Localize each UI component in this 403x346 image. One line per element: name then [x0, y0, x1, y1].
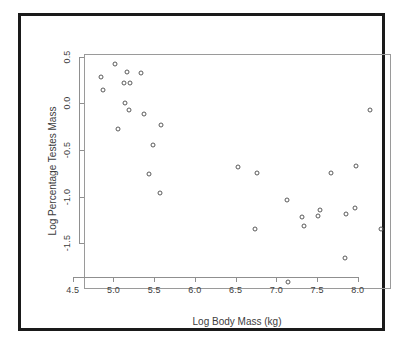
- x-axis-tick-label: 8.0: [351, 285, 364, 295]
- data-point: [284, 197, 289, 202]
- data-point: [124, 69, 129, 74]
- y-axis-title: Log Percentage Testes Mass: [47, 107, 58, 236]
- x-axis-tick: [113, 277, 114, 282]
- x-axis-tick-label: 7.0: [270, 285, 283, 295]
- data-point: [157, 191, 162, 196]
- data-point: [122, 80, 127, 85]
- y-axis-tick-label: -1.0: [62, 188, 72, 204]
- y-axis-tick: [79, 103, 84, 104]
- data-point: [285, 279, 290, 284]
- x-axis-tick: [236, 277, 237, 282]
- x-axis-tick-label: 5.0: [107, 285, 120, 295]
- x-axis-tick-label: 4.5: [66, 285, 79, 295]
- y-axis-tick: [79, 243, 84, 244]
- x-axis-tick: [73, 277, 74, 282]
- x-axis-tick-label: 5.5: [148, 285, 161, 295]
- data-point: [158, 122, 163, 127]
- data-point: [315, 214, 320, 219]
- y-axis-tick: [79, 57, 84, 58]
- y-axis-tick-label: 0.0: [62, 97, 72, 110]
- data-point: [342, 256, 347, 261]
- x-axis-title: Log Body Mass (kg): [193, 316, 282, 327]
- data-point: [146, 172, 151, 177]
- data-point: [115, 126, 120, 131]
- y-axis-tick-label: 0.5: [62, 50, 72, 63]
- data-point: [343, 212, 348, 217]
- data-point: [354, 163, 359, 168]
- data-point: [317, 207, 322, 212]
- data-point: [141, 111, 146, 116]
- x-axis-line: [73, 277, 358, 278]
- figure-border: 4.55.05.56.06.57.07.58.0 0.50.0-0.5-1.0-…: [18, 13, 385, 331]
- y-axis-tick-label: -0.5: [62, 142, 72, 158]
- data-point: [126, 108, 131, 113]
- x-axis-tick-label: 7.5: [311, 285, 324, 295]
- plot-panel-box: [84, 54, 391, 289]
- data-point: [379, 227, 384, 232]
- data-point: [99, 75, 104, 80]
- data-point: [100, 87, 105, 92]
- x-axis-tick-label: 6.5: [229, 285, 242, 295]
- figure-canvas: 4.55.05.56.06.57.07.58.0 0.50.0-0.5-1.0-…: [0, 0, 403, 346]
- data-point: [127, 80, 132, 85]
- data-point: [139, 70, 144, 75]
- data-point: [113, 62, 118, 67]
- y-axis-tick-label: -1.5: [62, 235, 72, 251]
- data-point: [236, 164, 241, 169]
- y-axis-tick: [79, 197, 84, 198]
- x-axis-tick: [358, 277, 359, 282]
- data-point: [253, 227, 258, 232]
- y-axis-tick: [79, 150, 84, 151]
- data-point: [353, 205, 358, 210]
- x-axis-tick: [154, 277, 155, 282]
- data-point: [300, 215, 305, 220]
- data-point: [302, 223, 307, 228]
- data-point: [254, 171, 259, 176]
- data-point: [368, 108, 373, 113]
- x-axis-tick: [317, 277, 318, 282]
- x-axis-tick-label: 6.0: [188, 285, 201, 295]
- scatter-plot-area: [85, 55, 390, 288]
- data-point: [122, 100, 127, 105]
- x-axis-tick: [276, 277, 277, 282]
- data-point: [151, 143, 156, 148]
- x-axis-tick: [195, 277, 196, 282]
- data-point: [328, 170, 333, 175]
